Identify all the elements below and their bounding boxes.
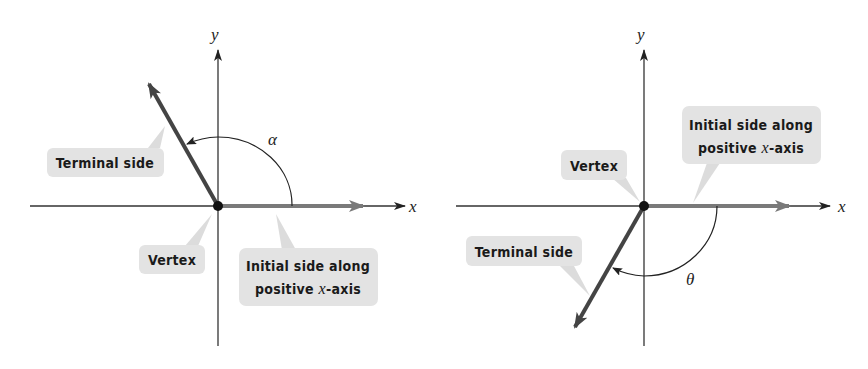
vertex-label: Vertex	[148, 252, 196, 268]
y-axis-label: y	[635, 25, 645, 44]
vertex-callout-pointer	[185, 214, 212, 246]
initial-side-label-line1: Initial side along	[689, 117, 813, 133]
terminal-callout-pointer	[560, 266, 590, 296]
terminal-callout-pointer	[148, 126, 165, 148]
terminal-side-label: Terminal side	[56, 155, 154, 171]
vertex-label: Vertex	[570, 158, 618, 174]
angle-diagrams: x y α Terminal side Vertex Initial side …	[0, 0, 868, 369]
figure-negative-angle: x y θ Vertex Initial side along positive…	[456, 25, 846, 346]
terminal-side-ray	[575, 206, 644, 327]
x-axis-label: x	[837, 197, 846, 216]
x-axis-label: x	[408, 197, 417, 216]
angle-label-theta: θ	[686, 270, 694, 289]
initial-side-label-line2: positive x-axis	[255, 280, 361, 297]
initial-side-label-line2: positive x-axis	[698, 139, 804, 156]
vertex-callout-pointer	[612, 178, 640, 202]
vertex-point	[213, 201, 223, 211]
angle-arc-theta	[613, 206, 717, 276]
vertex-point	[639, 201, 649, 211]
figure-positive-angle: x y α Terminal side Vertex Initial side …	[30, 25, 417, 346]
terminal-side-label: Terminal side	[475, 244, 573, 260]
initial-callout-pointer	[276, 214, 296, 250]
initial-side-label-line1: Initial side along	[246, 258, 370, 274]
initial-callout-pointer	[693, 160, 722, 203]
angle-label-alpha: α	[268, 130, 278, 149]
y-axis-label: y	[209, 25, 219, 44]
